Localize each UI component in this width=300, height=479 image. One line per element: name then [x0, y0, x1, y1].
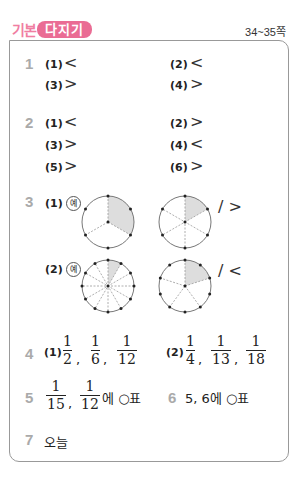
sub-label: (1) [44, 346, 62, 359]
fraction: 12 [63, 334, 72, 367]
sub-label: (2) [166, 346, 184, 359]
separator: , [198, 352, 202, 367]
section-badge: 기본 다지기 [12, 20, 92, 38]
separator: , [76, 352, 80, 367]
circle-diagram-sixths-one-shaded [157, 194, 213, 250]
question-number: 6 [168, 389, 176, 406]
question-number: 1 [25, 55, 33, 72]
page-reference: 34~35쪽 [245, 23, 286, 39]
circle-diagram-sixths-two-shaded [80, 194, 136, 250]
separator: , [234, 352, 238, 367]
answer: / > [218, 197, 242, 216]
sub-label: (4) [170, 79, 188, 92]
question-number: 7 [25, 431, 33, 448]
badge-label-practice: 다지기 [37, 21, 92, 38]
question-number: 3 [25, 193, 33, 210]
question-number: 4 [25, 345, 33, 362]
fraction: 115 [46, 379, 66, 412]
answer: > [190, 112, 203, 131]
answer: < [190, 53, 203, 72]
header: 기본 다지기 34~35쪽 [0, 0, 300, 45]
fraction: 16 [91, 334, 100, 367]
circle-diagram-twelfths-one-shaded [80, 258, 136, 314]
sub-label: (1) [45, 117, 63, 130]
fraction: 118 [246, 334, 266, 367]
sub-label: (1)예 [45, 196, 81, 211]
answer: > [64, 134, 77, 153]
circle-diagram-fifths-one-shaded [157, 258, 213, 314]
sub-label: (2) [170, 117, 188, 130]
answer: > [64, 74, 77, 93]
fraction: 14 [186, 334, 195, 367]
separator: , [103, 352, 107, 367]
question-number: 2 [25, 114, 33, 131]
sub-label: (3) [45, 139, 63, 152]
example-mark: 예 [66, 262, 81, 277]
answer-text: 오늘 [44, 432, 68, 451]
sub-label: (5) [45, 161, 63, 174]
sub-label: (4) [170, 139, 188, 152]
answer-text: 5, 6에 ○표 [185, 388, 249, 407]
fraction: 112 [80, 379, 100, 412]
example-mark: 예 [66, 196, 81, 211]
answer: < [64, 112, 77, 131]
badge-label-basic: 기본 [12, 19, 36, 39]
sub-label: (3) [45, 79, 63, 92]
separator: , [68, 396, 72, 411]
answer: < [190, 134, 203, 153]
answer: / < [218, 261, 242, 280]
answer: > [64, 156, 77, 175]
circle-mark-instruction: 에 ○표 [102, 388, 141, 407]
sub-label: (6) [170, 161, 188, 174]
answer: > [190, 156, 203, 175]
answer: < [64, 53, 77, 72]
fraction: 112 [117, 334, 137, 367]
sub-label: (2) [170, 58, 188, 71]
answer: > [190, 74, 203, 93]
question-number: 5 [25, 389, 33, 406]
fraction: 113 [211, 334, 231, 367]
sub-label: (1) [45, 58, 63, 71]
sub-label: (2)예 [45, 262, 81, 277]
